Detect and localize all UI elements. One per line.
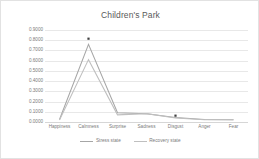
gridline — [45, 122, 248, 123]
legend-label: Stress state — [96, 139, 121, 144]
y-tick-label: 0.6000 — [12, 58, 43, 63]
legend-entry-stress-state[interactable]: Stress state — [80, 139, 120, 144]
y-tick-label: 0.3000 — [12, 89, 43, 94]
x-tick-label-happiness: Happiness — [49, 125, 71, 130]
y-tick-label: 0.5000 — [12, 69, 43, 74]
legend-entry-recovery-state[interactable]: Recovery state — [134, 139, 181, 144]
x-tick-label-disgust: Disgust — [168, 125, 183, 130]
y-tick-label: 0.7000 — [12, 48, 43, 53]
chart-container: Children's Park 0.90000.80000.70000.6000… — [0, 0, 259, 159]
x-axis-tick-labels: HappinessCalmnessSurpriseSadnessDisgustA… — [45, 125, 248, 135]
legend-label: Recovery state — [149, 139, 180, 144]
legend-line-icon — [134, 141, 147, 142]
y-tick-label: 0.0000 — [12, 120, 43, 125]
y-tick-label: 0.2000 — [12, 99, 43, 104]
chart-legend: Stress stateRecovery state — [1, 139, 259, 144]
series-line-stress-state — [60, 44, 234, 119]
legend-line-icon — [80, 141, 93, 142]
series-line-recovery-state — [60, 60, 234, 120]
x-tick-label-calmness: Calmness — [78, 125, 98, 130]
y-tick-label: 0.9000 — [12, 28, 43, 33]
chart-title: Children's Park — [1, 10, 259, 20]
y-tick-label: 0.4000 — [12, 79, 43, 84]
data-marker-disgust — [174, 115, 176, 117]
series-lines — [45, 30, 248, 122]
data-marker-calmness — [87, 38, 89, 40]
y-axis-tick-labels: 0.90000.80000.70000.60000.50000.40000.30… — [12, 30, 43, 122]
y-tick-label: 0.1000 — [12, 109, 43, 114]
x-tick-label-sadness: Sadness — [138, 125, 156, 130]
x-tick-label-fear: Fear — [229, 125, 238, 130]
x-tick-label-anger: Anger — [198, 125, 210, 130]
x-tick-label-surprise: Surprise — [109, 125, 126, 130]
y-tick-label: 0.8000 — [12, 38, 43, 43]
plot-area — [45, 30, 248, 122]
